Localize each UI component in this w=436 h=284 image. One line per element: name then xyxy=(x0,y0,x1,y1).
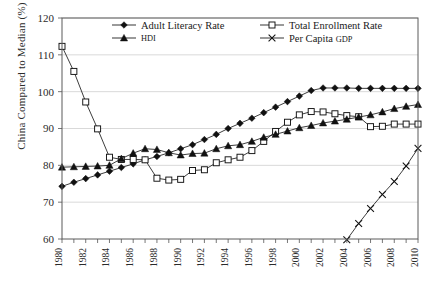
x-tick-label-2004: 2004 xyxy=(339,248,349,267)
series-adult-literacy-rate-point xyxy=(391,85,398,92)
series-adult-literacy-rate-point xyxy=(272,104,279,111)
series-adult-literacy-rate-point xyxy=(332,85,339,92)
series-total-enrollment-rate-point xyxy=(296,112,302,118)
series-adult-literacy-rate-point xyxy=(71,179,78,186)
x-tick-label-1982: 1982 xyxy=(78,248,88,267)
data-series-group xyxy=(58,43,421,243)
series-adult-literacy-rate-point xyxy=(189,141,196,148)
legend-item-total-enrollment-rate-label: Total Enrollment Rate xyxy=(289,20,382,31)
series-total-enrollment-rate-point xyxy=(379,123,385,129)
series-total-enrollment-rate-point xyxy=(368,124,374,130)
series-total-enrollment-rate-point xyxy=(190,167,196,173)
chart-legend: Adult Literacy RateTotal Enrollment Rate… xyxy=(112,20,382,44)
series-total-enrollment-rate-point xyxy=(391,121,397,127)
x-tick-label-1984: 1984 xyxy=(101,248,111,267)
legend-item-hdi: HDI xyxy=(112,34,156,43)
x-tick-label-1986: 1986 xyxy=(125,248,135,267)
series-total-enrollment-rate-point xyxy=(71,68,77,74)
series-total-enrollment-rate-point xyxy=(95,126,101,132)
x-tick-labels: 1980198219841986198819901992199419961998… xyxy=(54,248,420,267)
x-tick-label-2008: 2008 xyxy=(386,248,396,267)
y-tick-label-80: 80 xyxy=(43,159,55,171)
series-total-enrollment-rate-point xyxy=(83,99,89,105)
legend-item-adult-literacy-rate: Adult Literacy Rate xyxy=(112,20,225,31)
x-tick-label-1996: 1996 xyxy=(244,248,254,267)
y-tick-labels: 60708090100110120 xyxy=(38,12,55,245)
series-adult-literacy-rate-point xyxy=(308,87,315,94)
series-adult-literacy-rate-point xyxy=(82,175,89,182)
series-adult-literacy-rate-point xyxy=(367,85,374,92)
series-total-enrollment-rate-point xyxy=(225,157,231,163)
legend-item-adult-literacy-rate-label: Adult Literacy Rate xyxy=(141,20,225,31)
series-adult-literacy-rate-point xyxy=(403,85,410,92)
legend-item-total-enrollment-rate: Total Enrollment Rate xyxy=(260,20,382,31)
series-adult-literacy-rate-point xyxy=(154,153,161,160)
series-adult-literacy-rate-point xyxy=(379,85,386,92)
series-total-enrollment-rate-point xyxy=(237,154,243,160)
series-adult-literacy-rate-point xyxy=(213,131,220,138)
series-total-enrollment-rate-point xyxy=(308,109,314,115)
x-tick-label-2000: 2000 xyxy=(291,248,301,267)
series-adult-literacy-rate-point xyxy=(201,136,208,143)
series-adult-literacy-rate-point xyxy=(260,109,267,116)
series-adult-literacy-rate-point xyxy=(106,168,113,175)
chart-container: China Compared to Median (%) 60708090100… xyxy=(0,0,436,284)
series-adult-literacy-rate-point xyxy=(249,115,256,122)
y-tick-label-60: 60 xyxy=(43,233,55,245)
series-total-enrollment-rate-point xyxy=(166,177,172,183)
x-tick-label-2006: 2006 xyxy=(363,248,373,267)
x-tick-label-1988: 1988 xyxy=(149,248,159,267)
series-total-enrollment-rate-point xyxy=(284,119,290,125)
x-tick-label-1990: 1990 xyxy=(173,248,183,267)
legend-item-hdi-label: HDI xyxy=(141,34,156,43)
series-total-enrollment-rate-point xyxy=(142,157,148,163)
series-adult-literacy-rate-point xyxy=(344,85,351,92)
x-tick-label-1998: 1998 xyxy=(268,248,278,267)
series-total-enrollment-rate-point xyxy=(249,148,255,154)
legend-item-total-enrollment-rate-marker xyxy=(269,22,275,28)
legend-item-per-capita-gdp-label: Per Capita GDP xyxy=(289,33,353,44)
series-adult-literacy-rate-line xyxy=(62,88,418,186)
x-tick-label-1980: 1980 xyxy=(54,248,64,267)
x-tick-label-2002: 2002 xyxy=(315,248,325,267)
series-adult-literacy-rate-point xyxy=(225,125,232,132)
legend-item-per-capita-gdp: Per Capita GDP xyxy=(260,33,353,44)
y-tick-label-110: 110 xyxy=(38,49,55,61)
series-adult-literacy-rate-point xyxy=(94,172,101,179)
series-adult-literacy-rate-point xyxy=(284,98,291,105)
series-adult-literacy-rate-point xyxy=(296,93,303,100)
series-hdi-point xyxy=(130,150,137,157)
series-adult-literacy-rate-point xyxy=(355,85,362,92)
series-total-enrollment-rate-point xyxy=(403,121,409,127)
series-adult-literacy-rate-point xyxy=(320,85,327,92)
y-tick-label-90: 90 xyxy=(43,122,55,134)
series-total-enrollment-rate-point xyxy=(332,111,338,117)
chart-plot: 60708090100110120 1980198219841986198819… xyxy=(0,0,436,284)
x-tick-label-1992: 1992 xyxy=(196,248,206,267)
gridlines xyxy=(62,18,418,202)
series-total-enrollment-rate-point xyxy=(320,109,326,115)
series-total-enrollment-rate-point xyxy=(154,175,160,181)
y-tick-label-100: 100 xyxy=(38,86,55,98)
y-tick-label-70: 70 xyxy=(43,196,55,208)
axes xyxy=(58,18,418,243)
series-adult-literacy-rate-point xyxy=(237,120,244,127)
legend-item-adult-literacy-rate-marker xyxy=(121,22,128,29)
x-tick-label-1994: 1994 xyxy=(220,248,230,267)
series-hdi-point xyxy=(141,145,148,152)
series-hdi-point xyxy=(248,138,255,145)
x-tick-label-2010: 2010 xyxy=(410,248,420,267)
series-total-enrollment-rate-point xyxy=(213,160,219,166)
series-total-enrollment-rate-point xyxy=(178,176,184,182)
series-total-enrollment-rate-point xyxy=(201,167,207,173)
series-total-enrollment-rate-point xyxy=(106,154,112,160)
y-tick-label-120: 120 xyxy=(38,12,55,24)
series-total-enrollment-rate-point xyxy=(130,156,136,162)
